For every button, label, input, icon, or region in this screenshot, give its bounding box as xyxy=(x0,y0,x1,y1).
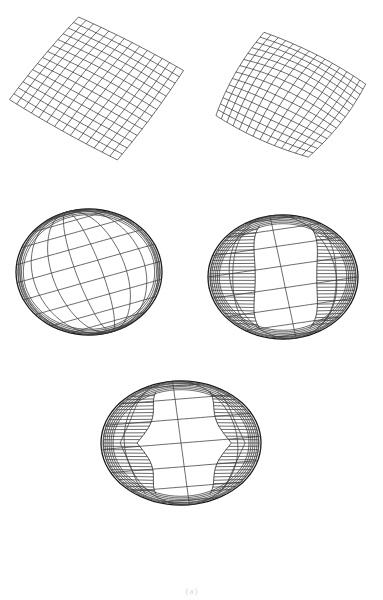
wire-line xyxy=(229,85,332,134)
wire-line xyxy=(246,47,301,132)
wire-line xyxy=(308,84,365,157)
figure-caption: (a) xyxy=(172,586,212,596)
wire-line xyxy=(239,44,293,129)
wire-line xyxy=(236,72,341,123)
wire-line xyxy=(218,110,313,153)
wire-line xyxy=(24,261,161,300)
wire-line xyxy=(233,41,286,126)
wire-line xyxy=(17,20,86,104)
wire-line xyxy=(226,91,327,138)
panel-5-sphere-with-lobed-cutouts xyxy=(101,381,261,505)
wire-line xyxy=(86,55,154,144)
wire-line xyxy=(240,66,345,117)
wire-line xyxy=(232,79,336,129)
wire-line xyxy=(264,32,366,84)
wire-line xyxy=(173,381,190,504)
wire-line xyxy=(33,70,143,129)
wire-line xyxy=(210,392,232,494)
wire-line xyxy=(22,213,157,331)
wire-line xyxy=(282,68,340,149)
wire-line xyxy=(227,38,278,123)
wire-line xyxy=(94,59,162,149)
wire-line xyxy=(216,32,264,115)
wire-line xyxy=(22,218,127,247)
wire-line xyxy=(110,67,177,157)
wire-line xyxy=(102,63,169,153)
wire-line xyxy=(17,244,154,283)
wire-line xyxy=(274,63,332,145)
wire-line xyxy=(35,279,161,314)
panel-1-flat-grid xyxy=(10,17,184,160)
wire-line xyxy=(17,229,143,264)
wire-line xyxy=(270,216,296,338)
panel-3-closed-sphere xyxy=(16,209,162,335)
wire-line xyxy=(221,35,271,119)
wire-line xyxy=(137,392,156,494)
wire-line xyxy=(66,211,130,332)
wire-line xyxy=(68,28,175,83)
wireframe-figure xyxy=(0,0,383,600)
wire-line xyxy=(302,80,360,155)
wire-line xyxy=(260,55,317,140)
wire-line xyxy=(216,116,308,158)
wire-line xyxy=(51,297,156,326)
panel-4-sphere-with-cutouts xyxy=(208,215,358,339)
wire-line xyxy=(244,59,350,111)
panel-2-curved-grid xyxy=(216,32,366,157)
wire-line xyxy=(260,37,363,89)
wire-line xyxy=(48,212,112,333)
wire-line xyxy=(63,34,171,90)
